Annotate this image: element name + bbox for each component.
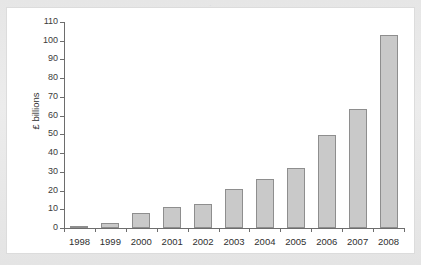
y-tick-mark xyxy=(60,116,64,117)
x-tick-mark xyxy=(342,228,343,232)
x-tick-label: 2003 xyxy=(219,236,250,248)
y-tick-label: 90 xyxy=(48,53,58,64)
bar xyxy=(380,35,398,228)
bar xyxy=(163,207,181,228)
y-tick-label: 100 xyxy=(43,35,58,46)
x-tick-mark xyxy=(126,228,127,232)
x-tick-mark xyxy=(280,228,281,232)
x-tick-mark xyxy=(64,228,65,232)
plot-area: 0102030405060708090100110 19981999200020… xyxy=(64,22,404,228)
y-tick-label: 60 xyxy=(48,110,58,121)
bar xyxy=(349,109,367,228)
x-tick-label: 2004 xyxy=(249,236,280,248)
y-tick-mark xyxy=(60,153,64,154)
y-tick-label: 80 xyxy=(48,72,58,83)
bar xyxy=(194,204,212,228)
chart-panel: £ billions 0102030405060708090100110 199… xyxy=(7,8,414,253)
x-tick-label: 2008 xyxy=(373,236,404,248)
x-tick-mark xyxy=(249,228,250,232)
y-tick-label: 40 xyxy=(48,147,58,158)
y-tick-label: 70 xyxy=(48,91,58,102)
x-tick-label: 1999 xyxy=(95,236,126,248)
cropped-text-remnant: . xyxy=(0,0,421,7)
x-tick-mark xyxy=(219,228,220,232)
x-tick-label: 1998 xyxy=(64,236,95,248)
y-tick-mark xyxy=(60,59,64,60)
y-tick-mark xyxy=(60,209,64,210)
x-tick-mark xyxy=(95,228,96,232)
x-tick-label: 2006 xyxy=(311,236,342,248)
y-tick-mark xyxy=(60,191,64,192)
x-tick-label: 2000 xyxy=(126,236,157,248)
bar xyxy=(287,168,305,228)
y-axis-line xyxy=(64,22,65,229)
y-tick-mark xyxy=(60,41,64,42)
x-tick-mark xyxy=(157,228,158,232)
y-tick-mark xyxy=(60,172,64,173)
bar xyxy=(225,189,243,228)
x-tick-mark xyxy=(404,228,405,232)
x-tick-label: 2002 xyxy=(188,236,219,248)
bar xyxy=(101,223,119,228)
y-tick-mark xyxy=(60,134,64,135)
y-tick-mark xyxy=(60,97,64,98)
y-axis-title-label: £ billions xyxy=(30,93,41,130)
bar xyxy=(318,135,336,228)
x-tick-mark xyxy=(311,228,312,232)
y-tick-label: 30 xyxy=(48,166,58,177)
x-axis-line xyxy=(64,228,404,229)
x-tick-label: 2005 xyxy=(280,236,311,248)
page-background: . £ billions 0102030405060708090100110 1… xyxy=(0,0,421,265)
y-tick-label: 50 xyxy=(48,128,58,139)
bar xyxy=(256,179,274,228)
x-tick-label: 2001 xyxy=(157,236,188,248)
y-axis-title: £ billions xyxy=(29,8,41,214)
x-tick-mark xyxy=(188,228,189,232)
x-tick-label: 2007 xyxy=(342,236,373,248)
bar xyxy=(132,213,150,228)
y-tick-label: 110 xyxy=(44,16,58,27)
y-tick-label: 10 xyxy=(48,203,58,214)
bar xyxy=(70,226,88,228)
y-tick-label: 20 xyxy=(48,185,58,196)
y-tick-label: 0 xyxy=(53,222,58,233)
y-tick-mark xyxy=(60,78,64,79)
y-tick-mark xyxy=(60,22,64,23)
x-tick-mark xyxy=(373,228,374,232)
